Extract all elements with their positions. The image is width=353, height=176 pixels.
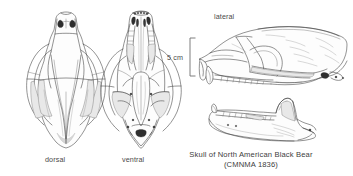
mandible-drawing	[209, 98, 316, 141]
lateral-cranium-drawing	[199, 27, 347, 85]
view-label-lateral: lateral	[214, 12, 234, 21]
scale-bar-label: 5 cm	[167, 53, 183, 62]
scale-bar-bracket	[190, 38, 195, 76]
figure-caption-title: Skull of North American Black Bear	[181, 150, 321, 159]
skull-figure-plate: dorsal ventral lateral 5 cm Skull of Nor…	[0, 0, 353, 176]
view-label-dorsal: dorsal	[45, 155, 65, 164]
dorsal-skull-drawing	[27, 12, 106, 148]
view-label-ventral: ventral	[122, 155, 144, 164]
ventral-skull-drawing	[101, 11, 182, 148]
figure-caption-specimen-number: (CMNMA 1836)	[181, 160, 321, 169]
